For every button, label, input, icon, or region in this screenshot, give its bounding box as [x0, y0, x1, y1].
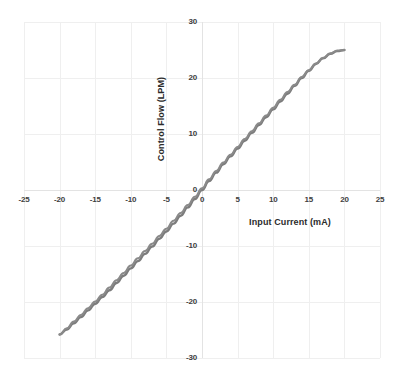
y-axis-title: Control Flow (LPM) — [156, 77, 166, 161]
x-tick-label: -25 — [19, 195, 30, 205]
y-tick-label: 0 — [193, 185, 197, 195]
x-axis-title: Input Current (mA) — [249, 217, 331, 227]
gridline-horizontal — [24, 358, 380, 359]
x-tick-label: 15 — [305, 195, 314, 205]
x-tick-label: 0 — [200, 195, 204, 205]
y-tick-label: 30 — [189, 17, 198, 27]
x-tick-label: 20 — [340, 195, 349, 205]
x-tick-label: -5 — [163, 195, 170, 205]
x-tick-label: -10 — [125, 195, 136, 205]
y-tick-label: -10 — [186, 241, 197, 251]
x-tick-label: 25 — [376, 195, 385, 205]
y-axis-line — [202, 22, 203, 358]
x-tick-label: -20 — [54, 195, 65, 205]
y-tick-label: 20 — [189, 73, 198, 83]
y-tick-label: -20 — [186, 297, 197, 307]
x-tick-label: 5 — [235, 195, 239, 205]
x-tick-label: 10 — [269, 195, 278, 205]
chart-container: -25-20-15-10-50510152025-30-20-100102030… — [0, 0, 400, 376]
y-tick-label: -30 — [186, 353, 197, 363]
y-tick-label: 10 — [189, 129, 198, 139]
x-tick-label: -15 — [90, 195, 101, 205]
gridline-vertical — [380, 22, 381, 358]
plot-area — [24, 22, 380, 358]
